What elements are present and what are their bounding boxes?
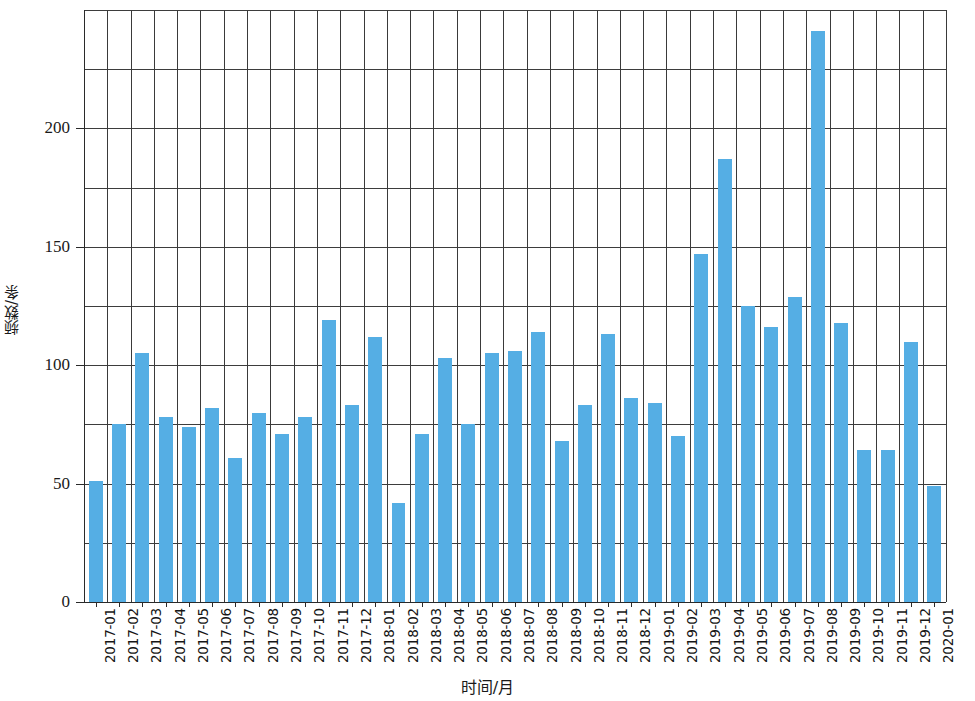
x-tick-label: 2019-10	[870, 608, 886, 663]
x-tick-label: 2019-07	[801, 608, 817, 663]
gridline-vertical	[760, 10, 761, 602]
x-tick-label: 2019-06	[777, 608, 793, 663]
bar	[461, 424, 475, 602]
x-axis-line	[84, 602, 946, 603]
y-tick-mark	[76, 602, 84, 603]
bar	[252, 413, 266, 602]
gridline-vertical	[387, 10, 388, 602]
bar	[881, 450, 895, 602]
y-tick-label: 150	[24, 237, 70, 257]
x-tick-label: 2018-04	[451, 608, 467, 663]
x-tick-label: 2017-05	[195, 608, 211, 663]
gridline-vertical	[620, 10, 621, 602]
y-tick-label: 0	[24, 592, 70, 612]
gridline-vertical	[177, 10, 178, 602]
x-tick-label: 2017-07	[241, 608, 257, 663]
y-tick-mark	[76, 128, 84, 129]
x-tick-label: 2019-05	[754, 608, 770, 663]
gridline-vertical	[853, 10, 854, 602]
x-tick-label: 2019-03	[707, 608, 723, 663]
gridline-vertical	[806, 10, 807, 602]
x-tick-label: 2018-10	[591, 608, 607, 663]
y-tick-label: 100	[24, 355, 70, 375]
x-tick-label: 2017-08	[265, 608, 281, 663]
gridline-vertical	[876, 10, 877, 602]
x-tick-label: 2019-02	[684, 608, 700, 663]
x-tick-label: 2018-05	[474, 608, 490, 663]
x-axis-title: 时间/月	[0, 674, 975, 698]
bar	[508, 351, 522, 602]
gridline-vertical	[550, 10, 551, 602]
x-tick-label: 2017-03	[148, 608, 164, 663]
x-tick-label: 2019-04	[731, 608, 747, 663]
gridline-vertical	[340, 10, 341, 602]
gridline-vertical	[503, 10, 504, 602]
gridline-vertical	[690, 10, 691, 602]
bar	[857, 450, 871, 602]
bar	[788, 297, 802, 602]
x-tick-label: 2018-08	[544, 608, 560, 663]
bar	[415, 434, 429, 602]
bar	[741, 306, 755, 602]
x-tick-label: 2017-11	[335, 608, 351, 663]
y-tick-mark	[76, 484, 84, 485]
gridline-vertical	[364, 10, 365, 602]
gridline-vertical	[830, 10, 831, 602]
gridline-vertical	[480, 10, 481, 602]
y-tick-label: 50	[24, 474, 70, 494]
x-tick-label: 2017-09	[288, 608, 304, 663]
bar	[438, 358, 452, 602]
gridline-vertical	[457, 10, 458, 602]
gridline-vertical	[527, 10, 528, 602]
gridline-vertical	[946, 10, 947, 602]
x-tick-label: 2019-09	[847, 608, 863, 663]
x-tick-label: 2018-07	[521, 608, 537, 663]
gridline-vertical	[294, 10, 295, 602]
gridline-vertical	[107, 10, 108, 602]
bar	[555, 441, 569, 602]
x-tick-label: 2018-11	[614, 608, 630, 663]
gridline-vertical	[736, 10, 737, 602]
x-tick-label: 2018-01	[381, 608, 397, 663]
bar	[624, 398, 638, 602]
gridline-vertical	[713, 10, 714, 602]
bar	[345, 405, 359, 602]
bar	[275, 434, 289, 602]
y-tick-mark	[76, 247, 84, 248]
gridline-vertical	[410, 10, 411, 602]
bar	[764, 327, 778, 602]
bar	[112, 424, 126, 602]
plot-area	[84, 10, 946, 602]
x-tick-label: 2018-09	[568, 608, 584, 663]
bar	[135, 353, 149, 602]
y-axis-title: 频数/条	[4, 285, 32, 335]
gridline-horizontal	[84, 10, 946, 11]
y-axis-line	[84, 10, 85, 602]
gridline-vertical	[247, 10, 248, 602]
bar	[531, 332, 545, 602]
gridline-vertical	[224, 10, 225, 602]
bar	[927, 486, 941, 602]
x-tick-label: 2018-03	[428, 608, 444, 663]
x-tick-label: 2019-01	[661, 608, 677, 663]
x-tick-label: 2017-06	[218, 608, 234, 663]
gridline-vertical	[643, 10, 644, 602]
bar	[694, 254, 708, 602]
x-tick-label: 2018-06	[498, 608, 514, 663]
bar	[834, 323, 848, 602]
x-tick-label: 2017-10	[311, 608, 327, 663]
gridline-vertical	[154, 10, 155, 602]
gridline-vertical	[899, 10, 900, 602]
bar	[392, 503, 406, 602]
x-tick-label: 2017-04	[172, 608, 188, 663]
x-tick-label: 2017-02	[125, 608, 141, 663]
y-tick-mark	[76, 365, 84, 366]
x-tick-label: 2020-01	[940, 608, 956, 663]
x-tick-label: 2019-08	[824, 608, 840, 663]
x-tick-label: 2018-02	[405, 608, 421, 663]
bar	[648, 403, 662, 602]
gridline-vertical	[597, 10, 598, 602]
bar-chart: 频数/条 050100150200 2017-012017-022017-032…	[0, 0, 975, 701]
bar	[205, 408, 219, 602]
gridline-vertical	[783, 10, 784, 602]
